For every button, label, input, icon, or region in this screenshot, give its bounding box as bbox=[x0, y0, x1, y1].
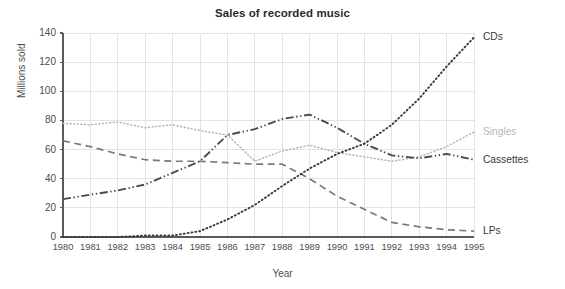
series-line-lps bbox=[63, 141, 474, 231]
series-line-cds bbox=[63, 37, 474, 237]
series-label-singles: Singles bbox=[483, 127, 516, 137]
series-label-lps: LPs bbox=[483, 226, 501, 236]
chart-container: Sales of recorded music Millions sold Ye… bbox=[0, 0, 565, 289]
axis-lines bbox=[60, 33, 474, 237]
plot-area bbox=[0, 0, 565, 289]
series-label-cassettes: Cassettes bbox=[483, 155, 528, 165]
gridlines bbox=[63, 33, 474, 237]
series-label-cds: CDs bbox=[483, 32, 503, 42]
data-series bbox=[63, 37, 474, 237]
series-line-cassettes bbox=[63, 115, 474, 200]
